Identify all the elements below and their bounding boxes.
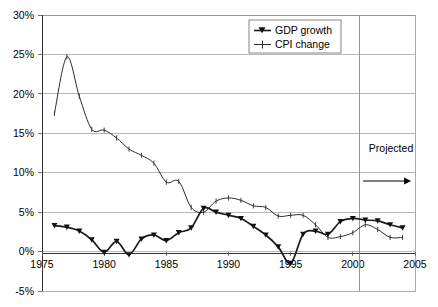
x-tick-label-1980: 1980 <box>92 258 116 270</box>
y-tick-label-10: 10% <box>13 166 34 178</box>
economic-indicators-line-chart: 30%25%20%15%10%5%0%-5% 19751980198519901… <box>0 0 438 307</box>
y-tick-label--5: -5% <box>15 285 34 297</box>
x-tick-label-1985: 1985 <box>155 258 179 270</box>
x-tick-label-2000: 2000 <box>341 258 365 270</box>
y-axis-ticks-group: 30%25%20%15%10%5%0%-5% <box>13 9 42 297</box>
y-tick-label-25: 25% <box>13 48 34 60</box>
projected-label: Projected <box>369 142 414 154</box>
y-tick-label-30: 30% <box>13 9 34 21</box>
legend-label-cpi-change: CPI change <box>275 38 330 50</box>
x-tick-label-1975: 1975 <box>30 258 54 270</box>
chart-container: 30%25%20%15%10%5%0%-5% 19751980198519901… <box>0 0 438 307</box>
x-tick-label-2005: 2005 <box>403 258 427 270</box>
chart-legend[interactable]: GDP growth CPI change <box>249 20 341 53</box>
legend-label-gdp-growth: GDP growth <box>275 24 332 36</box>
y-tick-label-20: 20% <box>13 88 34 100</box>
y-tick-label-5: 5% <box>19 206 34 218</box>
x-tick-label-1990: 1990 <box>217 258 241 270</box>
y-tick-label-0: 0% <box>19 245 34 257</box>
y-tick-label-15: 15% <box>13 127 34 139</box>
